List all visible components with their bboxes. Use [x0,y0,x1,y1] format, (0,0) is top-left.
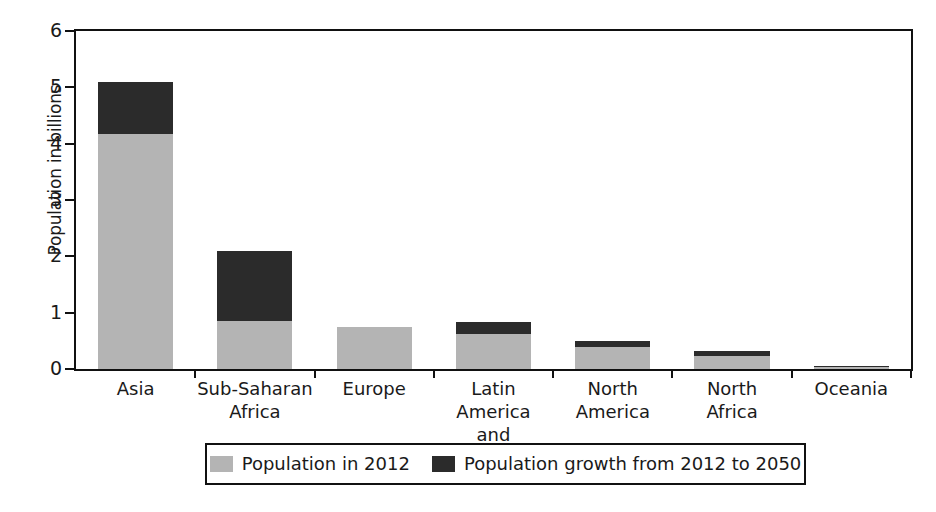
bar-segment-population-2012 [337,327,412,369]
legend-label: Population growth from 2012 to 2050 [464,454,801,474]
x-axis-tick-label-line1: Asia [117,378,155,399]
stacked-bar-chart: Population in billions 0123456 AsiaSub-S… [0,0,936,512]
y-axis-tick-mark [65,143,74,145]
x-axis-tick-label-line2: Africa [672,400,791,423]
y-axis-tick-label: 1 [36,303,62,322]
bar-segment-population-2012 [98,134,173,369]
bar-sub-saharan-africa [217,251,292,369]
dark-gray-swatch [432,456,455,472]
bar-asia [98,82,173,369]
x-axis-tick-label-line1: Europe [343,378,406,399]
y-axis-tick-mark [65,368,74,370]
bar-segment-growth [456,322,531,334]
bar-europe [337,327,412,369]
bar-segment-growth [217,251,292,321]
x-axis-tick-label-line1: North [707,378,757,399]
y-axis-tick-mark [65,86,74,88]
x-axis-tick-label: Sub-SaharanAfrica [195,377,314,423]
bar-segment-population-2012 [217,321,292,369]
y-axis-tick-label: 2 [36,246,62,265]
x-axis-tick-mark [791,371,793,378]
x-axis-tick-mark [314,371,316,378]
x-axis-tick-label: NorthAfrica [672,377,791,423]
bar-segment-population-2012 [456,334,531,369]
light-gray-swatch [210,456,233,472]
x-axis-tick-label: NorthAmerica [553,377,672,423]
chart-legend: Population in 2012Population growth from… [205,443,806,485]
x-axis-tick-label-line1: North [588,378,638,399]
bar-latin-america-and-caribbean [456,322,531,369]
bar-segment-population-2012 [575,347,650,369]
x-axis-tick-labels: AsiaSub-SaharanAfricaEuropeLatin America… [74,377,913,439]
y-axis-tick-mark [65,312,74,314]
legend-label: Population in 2012 [242,454,410,474]
x-axis-tick-label: Europe [315,377,434,400]
x-axis-tick-mark [910,371,912,378]
x-axis-tick-label: Oceania [792,377,911,400]
x-axis-tick-label-line1: Latin America [456,378,530,422]
bar-segment-population-2012 [814,367,889,369]
x-axis-tick-mark [671,371,673,378]
y-axis-tick-labels: 0123456 [34,0,62,512]
y-axis-tick-label: 5 [36,77,62,96]
y-axis-tick-mark [65,30,74,32]
y-axis-tick-label: 0 [36,359,62,378]
x-axis-tick-mark [433,371,435,378]
bar-oceania [814,366,889,369]
y-axis-tick-label: 3 [36,190,62,209]
y-axis-tick-label: 6 [36,21,62,40]
legend-entry: Population in 2012 [210,454,410,474]
x-axis-tick-label-line2: Africa [195,400,314,423]
y-axis-tick-label: 4 [36,134,62,153]
x-axis-tick-mark [194,371,196,378]
y-axis-tick-mark [65,255,74,257]
bar-segment-growth [98,82,173,134]
x-axis-tick-label-line1: Sub-Saharan [197,378,313,399]
bar-north-africa [694,351,769,369]
x-axis-tick-label: Asia [76,377,195,400]
bars-layer [76,31,911,369]
x-axis-tick-mark [552,371,554,378]
legend-entry: Population growth from 2012 to 2050 [432,454,801,474]
y-axis-tick-mark [65,199,74,201]
x-axis-tick-label-line2: America [553,400,672,423]
x-axis-tick-label-line1: Oceania [815,378,889,399]
bar-north-america [575,341,650,369]
bar-segment-population-2012 [694,356,769,369]
